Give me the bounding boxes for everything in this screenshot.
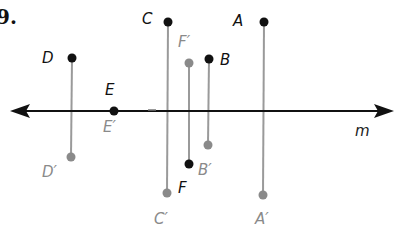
label-a: A xyxy=(232,12,243,30)
label-b: B xyxy=(220,51,230,69)
label-f: F xyxy=(178,179,187,197)
point-c-prime xyxy=(163,189,172,198)
point-f-prime xyxy=(185,59,194,68)
point-f xyxy=(185,160,194,169)
point-a xyxy=(260,18,269,27)
segment-b xyxy=(208,59,209,145)
label-e: E xyxy=(105,81,115,99)
label-d: D xyxy=(42,49,54,67)
label-b-prime: B′ xyxy=(198,161,212,179)
label-f-prime: F′ xyxy=(178,33,191,51)
problem-number: 9. xyxy=(0,5,17,29)
point-a-prime xyxy=(259,191,268,200)
point-d-prime xyxy=(67,153,76,162)
point-labels: DD′EE′CC′FF′BB′AA′ xyxy=(42,10,269,228)
reflection-diagram: 9. DD′EE′CC′FF′BB′AA′ m xyxy=(0,0,401,233)
label-c: C xyxy=(142,10,153,28)
label-d-prime: D′ xyxy=(42,163,58,181)
point-c xyxy=(164,18,173,27)
label-c-prime: C′ xyxy=(154,210,168,228)
perpendicular-segments xyxy=(71,22,264,195)
line-label-m: m xyxy=(355,122,370,140)
segment-d xyxy=(71,58,72,157)
label-a-prime: A′ xyxy=(254,210,269,228)
segment-a xyxy=(263,22,264,195)
segment-c xyxy=(167,22,168,193)
point-e xyxy=(110,107,119,116)
point-b xyxy=(205,55,214,64)
label-e-prime: E′ xyxy=(103,118,116,136)
line-m xyxy=(10,104,394,118)
point-b-prime xyxy=(204,141,213,150)
point-d xyxy=(68,54,77,63)
